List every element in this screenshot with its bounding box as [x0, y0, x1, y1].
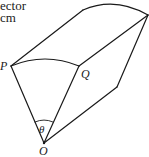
edge-o-back	[44, 87, 117, 143]
front-arc-pq	[11, 59, 79, 66]
theta-arc	[35, 120, 53, 122]
label-o: O	[39, 145, 48, 157]
label-theta: θ	[39, 124, 44, 135]
edge-oq	[44, 66, 79, 143]
label-p: P	[0, 60, 7, 72]
edge-p-back	[11, 10, 83, 66]
prism-diagram	[0, 0, 149, 157]
label-q: Q	[81, 68, 90, 80]
back-arc	[83, 4, 148, 15]
